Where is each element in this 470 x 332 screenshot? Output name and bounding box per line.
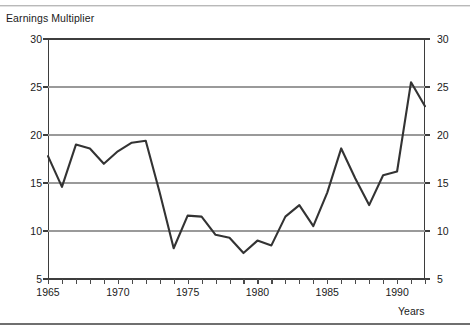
- x-tick-label-1980: 1980: [246, 286, 269, 298]
- page-rule-bottom: [0, 323, 470, 325]
- x-axis-title: Years: [398, 305, 424, 317]
- y-tick-label-left-30: 30: [30, 34, 42, 45]
- y-tick-label-left-20: 20: [30, 130, 42, 141]
- x-tick-label-1965: 1965: [36, 286, 59, 298]
- x-tick-mark-1981: [271, 279, 272, 284]
- x-tick-mark-1992: [425, 279, 426, 284]
- y-tick-label-right-5: 5: [437, 274, 443, 285]
- x-tick-label-1990: 1990: [385, 286, 408, 298]
- chart-page: Earnings Multiplier 55101015152020252530…: [0, 0, 470, 332]
- x-tick-mark-1966: [62, 279, 63, 284]
- y-tick-label-left-15: 15: [30, 178, 42, 189]
- x-tick-mark-1979: [243, 279, 244, 284]
- x-tick-mark-1968: [90, 279, 91, 284]
- y-tick-mark-10: [425, 230, 430, 231]
- gridline-20: [48, 134, 425, 135]
- y-tick-mark-15: [425, 182, 430, 183]
- x-tick-label-1985: 1985: [316, 286, 339, 298]
- gridline-10: [48, 230, 425, 231]
- x-tick-mark-1988: [369, 279, 370, 284]
- y-tick-label-left-10: 10: [30, 226, 42, 237]
- y-tick-mark-20: [43, 134, 48, 135]
- y-tick-mark-10: [43, 230, 48, 231]
- y-tick-label-left-5: 5: [36, 274, 42, 285]
- gridline-30: [48, 38, 425, 39]
- x-tick-mark-1989: [383, 279, 384, 284]
- y-tick-mark-30: [43, 38, 48, 39]
- y-tick-label-right-20: 20: [437, 130, 449, 141]
- x-tick-mark-1986: [341, 279, 342, 284]
- y-tick-mark-25: [425, 86, 430, 87]
- y-tick-mark-15: [43, 182, 48, 183]
- gridline-25: [48, 86, 425, 87]
- x-tick-mark-1965: [48, 279, 49, 284]
- x-tick-mark-1974: [174, 279, 175, 284]
- x-tick-mark-1972: [146, 279, 147, 284]
- x-tick-mark-1991: [411, 279, 412, 284]
- x-tick-label-1975: 1975: [176, 286, 199, 298]
- x-tick-mark-1971: [132, 279, 133, 284]
- x-tick-mark-1982: [285, 279, 286, 284]
- y-tick-label-left-25: 25: [30, 82, 42, 93]
- x-tick-mark-1976: [202, 279, 203, 284]
- y-tick-mark-25: [43, 86, 48, 87]
- x-tick-mark-1969: [104, 279, 105, 284]
- x-tick-mark-1985: [327, 279, 328, 284]
- y-axis-title: Earnings Multiplier: [6, 12, 94, 24]
- x-tick-mark-1978: [230, 279, 231, 284]
- plot-area-frame: [48, 39, 425, 279]
- y-tick-label-right-30: 30: [437, 34, 449, 45]
- x-tick-mark-1983: [299, 279, 300, 284]
- x-tick-mark-1967: [76, 279, 77, 284]
- gridline-15: [48, 182, 425, 183]
- x-tick-mark-1980: [257, 279, 258, 284]
- x-tick-mark-1984: [313, 279, 314, 284]
- x-tick-mark-1990: [397, 279, 398, 284]
- x-tick-mark-1975: [188, 279, 189, 284]
- page-rule-top-secondary: [0, 6, 470, 7]
- y-tick-label-right-15: 15: [437, 178, 449, 189]
- x-tick-mark-1987: [355, 279, 356, 284]
- x-tick-label-1970: 1970: [106, 286, 129, 298]
- y-tick-label-right-10: 10: [437, 226, 449, 237]
- x-tick-mark-1973: [160, 279, 161, 284]
- y-tick-label-right-25: 25: [437, 82, 449, 93]
- x-tick-mark-1970: [118, 279, 119, 284]
- x-tick-mark-1977: [216, 279, 217, 284]
- y-tick-mark-20: [425, 134, 430, 135]
- y-tick-mark-30: [425, 38, 430, 39]
